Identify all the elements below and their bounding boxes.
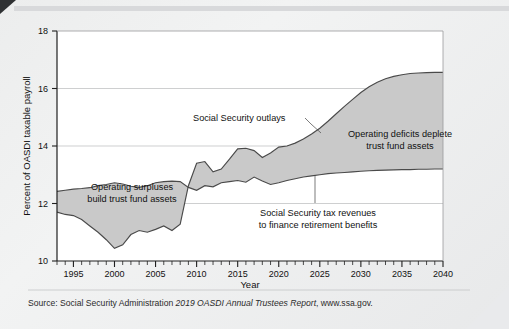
x-axis-title: Year (240, 279, 259, 290)
x-tick-label: 2035 (392, 269, 412, 279)
y-axis-title: Percent of OASDI taxable payroll (21, 76, 32, 215)
chart-figure: 1012141618 19952000200520102015202020252… (0, 0, 509, 329)
y-tick-label: 10 (38, 256, 48, 266)
x-tick-label: 2015 (228, 269, 248, 279)
x-tick-label: 2005 (146, 269, 166, 279)
annotation-surplus-line-1: build trust fund assets (87, 194, 177, 204)
chart-svg: 1012141618 19952000200520102015202020252… (0, 0, 509, 329)
x-axis-major-ticks (73, 261, 443, 267)
x-tick-label: 2020 (269, 269, 289, 279)
y-tick-label: 18 (38, 26, 48, 36)
annotation-revenues-line-0: Social Security tax revenues (260, 208, 376, 218)
y-tick-label: 12 (38, 199, 48, 209)
annotation-surplus-line-0: Operating surpluses (91, 182, 174, 192)
x-tick-label: 2000 (104, 269, 124, 279)
y-axis-tick-labels: 1012141618 (38, 26, 48, 266)
source-note: Source: Social Security Administration 2… (28, 298, 373, 308)
x-tick-label: 2010 (187, 269, 207, 279)
x-axis-tick-labels: 1995200020052010201520202025203020352040 (63, 269, 453, 279)
annotation-outlays: Social Security outlays (193, 113, 286, 123)
annotation-revenues-line-1: to finance retirement benefits (259, 220, 378, 230)
chart-page: 1012141618 19952000200520102015202020252… (0, 0, 509, 329)
y-tick-label: 16 (38, 84, 48, 94)
x-tick-label: 2030 (351, 269, 371, 279)
annotation-deficit-line-1: trust fund assets (366, 141, 434, 151)
source-suffix: , www.ssa.gov. (316, 298, 373, 308)
x-tick-label: 2025 (310, 269, 330, 279)
annotation-outlays-line-0: Social Security outlays (193, 113, 286, 123)
y-axis-ticks (52, 31, 57, 261)
x-tick-label: 2040 (433, 269, 453, 279)
source-report-title: 2019 OASDI Annual Trustees Report (175, 298, 317, 308)
source-prefix: Source: Social Security Administration (28, 298, 176, 308)
y-tick-label: 14 (38, 141, 48, 151)
annotation-deficit-line-0: Operating deficits deplete (348, 129, 452, 139)
x-tick-label: 1995 (63, 269, 83, 279)
